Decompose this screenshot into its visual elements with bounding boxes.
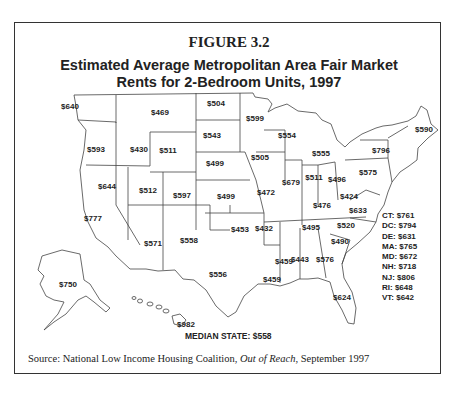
legend-item: DE: $631 (382, 232, 417, 242)
state-label-va: $633 (349, 206, 367, 215)
state-label-mt: $469 (151, 108, 169, 117)
state-label-tn: $495 (302, 223, 320, 232)
state-label-ca: $777 (84, 214, 102, 223)
state-label-ny: $796 (372, 146, 390, 155)
legend-item: MD: $672 (382, 252, 417, 262)
state-label-il: $679 (282, 178, 300, 187)
small-states-legend: CT: $761 DC: $794 DE: $631 MA: $765 MD: … (382, 211, 417, 304)
state-label-wi: $554 (278, 131, 296, 140)
state-label-al: $443 (291, 255, 309, 264)
state-label-id: $430 (130, 145, 148, 154)
legend-item: MA: $765 (382, 242, 417, 252)
state-label-az: $571 (144, 239, 162, 248)
median-state: MEDIAN STATE: $558 (185, 331, 272, 341)
state-label-nd: $504 (207, 99, 225, 108)
state-label-sc: $490 (331, 237, 349, 246)
state-label-ak: $750 (59, 280, 77, 289)
state-label-or: $593 (87, 145, 105, 154)
source-prefix: Source: National Low Income Housing Coal… (28, 353, 240, 364)
state-label-ut: $512 (139, 186, 157, 195)
state-label-mo: $472 (257, 188, 275, 197)
state-label-ok: $453 (231, 225, 249, 234)
state-label-me: $590 (415, 125, 433, 134)
state-label-nv: $644 (98, 182, 116, 191)
state-label-fl: $624 (333, 293, 351, 302)
state-label-sd: $543 (203, 131, 221, 140)
state-label-ia: $505 (251, 153, 269, 162)
source-citation: Source: National Low Income Housing Coal… (28, 353, 369, 364)
state-label-tx: $556 (209, 270, 227, 279)
state-label-nc: $520 (337, 221, 355, 230)
legend-item: VT: $642 (382, 293, 417, 303)
legend-item: NJ: $806 (382, 273, 417, 283)
legend-item: CT: $761 (382, 211, 417, 221)
state-label-wy: $511 (159, 146, 176, 155)
state-label-ga: $576 (316, 255, 334, 264)
state-label-in: $511 (305, 173, 322, 182)
state-label-wa: $640 (61, 102, 79, 111)
source-title: Out of Reach (240, 353, 295, 364)
source-suffix: , September 1997 (295, 353, 369, 364)
state-label-ks: $499 (217, 192, 235, 201)
state-label-wv: $424 (340, 192, 358, 201)
state-label-mi: $555 (312, 149, 330, 158)
alaska-outline (38, 250, 110, 330)
state-label-la: $459 (263, 275, 281, 284)
state-label-ne: $499 (206, 159, 224, 168)
state-label-co: $597 (173, 191, 191, 200)
state-label-mn: $599 (246, 114, 264, 123)
legend-item: DC: $794 (382, 221, 417, 231)
legend-item: RI: $648 (382, 283, 417, 293)
state-label-ar: $432 (255, 224, 273, 233)
state-label-pa: $575 (359, 168, 377, 177)
state-label-hi: $982 (177, 320, 195, 329)
state-label-oh: $496 (328, 175, 346, 184)
state-label-ky: $476 (313, 201, 331, 210)
state-label-nm: $558 (180, 236, 198, 245)
legend-item: NH: $718 (382, 262, 417, 272)
